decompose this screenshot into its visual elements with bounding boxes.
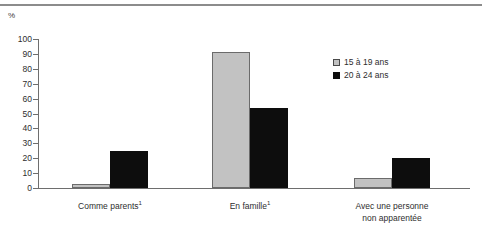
y-axis-tick-label-row: 30 bbox=[0, 139, 32, 147]
x-axis-category-label: Avec une personnenon apparentée bbox=[312, 200, 472, 224]
y-axis-tick-mark bbox=[33, 99, 39, 100]
chart-legend: 15 à 19 ans 20 à 24 ans bbox=[333, 56, 388, 82]
y-axis-tick-mark bbox=[33, 173, 39, 174]
legend-swatch-icon bbox=[333, 72, 340, 79]
bar bbox=[392, 158, 430, 188]
y-axis-tick-mark bbox=[33, 188, 39, 189]
y-axis-tick-label: 10 bbox=[6, 169, 32, 177]
y-axis-tick-label: 0 bbox=[6, 184, 32, 192]
y-axis-tick-mark bbox=[33, 143, 39, 144]
bar bbox=[72, 184, 110, 188]
y-axis-tick-label: 100 bbox=[6, 35, 32, 43]
bar bbox=[354, 178, 392, 188]
y-axis-tick-label: 90 bbox=[6, 50, 32, 58]
x-axis-category-label: En famille1 bbox=[170, 200, 330, 212]
y-axis-tick-label-row: 10 bbox=[0, 169, 32, 177]
legend-swatch-icon bbox=[333, 59, 340, 66]
y-axis-tick-label-row: 0 bbox=[0, 184, 32, 192]
y-axis-tick-label: 60 bbox=[6, 95, 32, 103]
y-axis-tick-label: 30 bbox=[6, 139, 32, 147]
y-axis-tick-label: 50 bbox=[6, 110, 32, 118]
y-axis-tick-mark bbox=[33, 54, 39, 55]
y-axis-tick-label: 20 bbox=[6, 154, 32, 162]
y-axis-tick-label-row: 60 bbox=[0, 95, 32, 103]
y-axis-tick-label-row: 80 bbox=[0, 65, 32, 73]
x-axis-line bbox=[38, 188, 470, 189]
x-axis-category-label: Comme parents1 bbox=[30, 200, 190, 212]
legend-item-label: 15 à 19 ans bbox=[344, 57, 388, 67]
y-axis-tick-label-row: 90 bbox=[0, 50, 32, 58]
bar-chart-figure: % 1009080706050403020100 Comme parents1E… bbox=[0, 0, 482, 236]
bar bbox=[250, 108, 288, 188]
bar bbox=[212, 52, 250, 188]
y-axis-tick-label-row: 50 bbox=[0, 110, 32, 118]
bar bbox=[110, 151, 148, 188]
y-axis-tick-label: 40 bbox=[6, 124, 32, 132]
legend-item-label: 20 à 24 ans bbox=[344, 70, 388, 80]
y-axis-tick-label-row: 100 bbox=[0, 35, 32, 43]
y-axis-tick-mark bbox=[33, 128, 39, 129]
y-axis-tick-mark bbox=[33, 114, 39, 115]
y-axis-tick-mark bbox=[33, 39, 39, 40]
legend-item: 15 à 19 ans bbox=[333, 56, 388, 68]
y-axis-tick-mark bbox=[33, 84, 39, 85]
y-axis-tick-label-row: 20 bbox=[0, 154, 32, 162]
y-axis-tick-label: 70 bbox=[6, 80, 32, 88]
y-axis-tick-mark bbox=[33, 158, 39, 159]
legend-item: 20 à 24 ans bbox=[333, 69, 388, 81]
y-axis-tick-label: 80 bbox=[6, 65, 32, 73]
plot-area: 1009080706050403020100 Comme parents1En … bbox=[0, 0, 482, 236]
y-axis-tick-mark bbox=[33, 69, 39, 70]
y-axis-tick-label-row: 40 bbox=[0, 124, 32, 132]
y-axis-tick-label-row: 70 bbox=[0, 80, 32, 88]
